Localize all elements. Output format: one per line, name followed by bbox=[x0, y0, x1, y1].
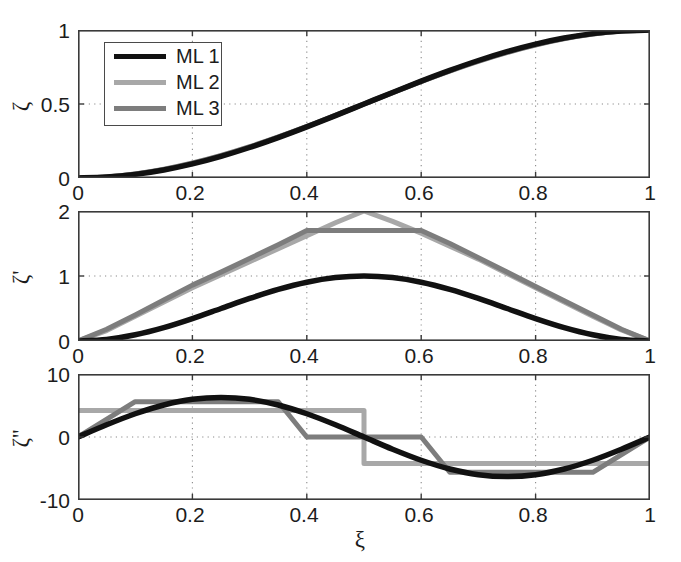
xtick-zetaprime-1: 1 bbox=[636, 345, 664, 366]
ytick-zetaprime-2: 2 bbox=[30, 201, 70, 222]
legend-row-ml3: ML 3 bbox=[105, 95, 221, 121]
xtick-zeta-04: 0.4 bbox=[284, 182, 324, 203]
xtick-zetadprime-08: 0.8 bbox=[513, 504, 553, 525]
xtick-zeta-1: 1 bbox=[636, 182, 664, 203]
legend: ML 1 ML 2 ML 3 bbox=[104, 42, 222, 126]
ylabel-zeta-double-prime: ζ'' bbox=[9, 413, 32, 465]
xtick-zetadprime-02: 0.2 bbox=[170, 504, 210, 525]
xtick-zetaprime-08: 0.8 bbox=[513, 345, 553, 366]
panel-zeta-prime bbox=[78, 211, 650, 341]
ytick-zetadprime-10: 10 bbox=[22, 364, 70, 385]
figure-canvas: 1 0.5 0 0 0.2 0.4 0.6 0.8 1 ζ ML 1 ML 2 … bbox=[0, 0, 681, 562]
panel-zeta-double-prime bbox=[78, 374, 650, 500]
xtick-zetaprime-02: 0.2 bbox=[170, 345, 210, 366]
ylabel-zeta-prime: ζ' bbox=[9, 254, 32, 302]
xtick-zeta-06: 0.6 bbox=[399, 182, 439, 203]
legend-swatch-ml3 bbox=[114, 106, 166, 111]
ytick-zeta-1: 1 bbox=[30, 20, 70, 41]
legend-row-ml1: ML 1 bbox=[105, 43, 221, 69]
ylabel-zeta: ζ bbox=[9, 83, 32, 131]
xtick-zeta-08: 0.8 bbox=[513, 182, 553, 203]
xtick-zetadprime-06: 0.6 bbox=[399, 504, 439, 525]
legend-swatch-ml2 bbox=[114, 80, 166, 85]
curve-ml-3 bbox=[78, 231, 650, 342]
xtick-zetadprime-04: 0.4 bbox=[284, 504, 324, 525]
ytick-zetadprime-neg10: -10 bbox=[14, 490, 70, 511]
curve-ml-1 bbox=[78, 276, 650, 341]
xtick-zetadprime-0: 0 bbox=[64, 504, 92, 525]
legend-label-ml3: ML 3 bbox=[176, 98, 220, 118]
xtick-zetadprime-1: 1 bbox=[636, 504, 664, 525]
plot-area-zeta-double-prime bbox=[78, 374, 650, 500]
xlabel: ξ bbox=[348, 528, 372, 551]
legend-swatch-ml1 bbox=[114, 54, 166, 59]
ytick-zetaprime-1: 1 bbox=[30, 266, 70, 287]
legend-row-ml2: ML 2 bbox=[105, 69, 221, 95]
xtick-zetaprime-04: 0.4 bbox=[284, 345, 324, 366]
xtick-zetaprime-06: 0.6 bbox=[399, 345, 439, 366]
xtick-zeta-02: 0.2 bbox=[170, 182, 210, 203]
legend-label-ml2: ML 2 bbox=[176, 72, 220, 92]
plot-area-zeta-prime bbox=[78, 211, 650, 341]
legend-label-ml1: ML 1 bbox=[176, 46, 220, 66]
